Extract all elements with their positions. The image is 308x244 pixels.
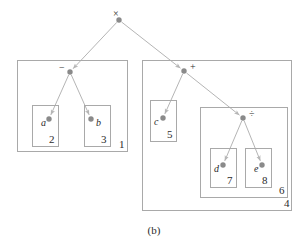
tree-node-label-e: e xyxy=(254,164,258,174)
tree-node-label-root: × xyxy=(113,9,119,19)
scope-box-number-5: 5 xyxy=(167,129,173,140)
scope-box-number-7: 7 xyxy=(227,175,233,186)
tree-node-label-minus: − xyxy=(59,63,65,73)
tree-node-label-b: b xyxy=(96,118,101,128)
tree-node-label-c: c xyxy=(154,117,158,127)
figure-caption: (b) xyxy=(0,224,308,236)
tree-node-label-d: d xyxy=(214,164,219,174)
scope-box-number-6: 6 xyxy=(279,185,285,196)
tree-node-label-plus: + xyxy=(190,62,196,72)
scope-box-number-1: 1 xyxy=(119,139,125,150)
tree-node-label-divide: ÷ xyxy=(249,109,255,119)
scope-box-number-2: 2 xyxy=(49,134,55,145)
scope-box-number-8: 8 xyxy=(262,175,268,186)
scope-box-number-4: 4 xyxy=(284,198,290,209)
tree-node-label-a: a xyxy=(41,118,46,128)
expression-tree-figure: 12345678 ×−+÷abcde (b) xyxy=(0,0,308,244)
scope-box-number-3: 3 xyxy=(101,134,107,145)
